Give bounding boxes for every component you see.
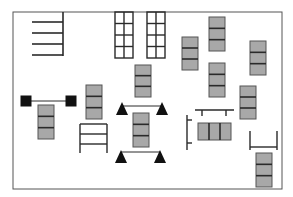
- stack-body: [209, 17, 225, 51]
- stack-body: [38, 105, 54, 139]
- gray-stack: [240, 86, 256, 119]
- stack-body: [86, 85, 102, 119]
- u-frame: [250, 131, 277, 150]
- floor-plan-diagram: [0, 0, 293, 197]
- gray-stack: [135, 65, 151, 97]
- t-bench: [195, 110, 234, 116]
- stack-body: [240, 86, 256, 119]
- gray-stack: [38, 105, 54, 139]
- stack-body: [250, 41, 266, 75]
- black-square-icon: [66, 96, 77, 107]
- shelf-unit: [32, 12, 63, 56]
- grid-rack: [115, 12, 133, 58]
- gray-stack: [182, 37, 198, 70]
- stack-body: [256, 153, 272, 187]
- triangle-icon: [156, 102, 168, 115]
- black-square-icon: [21, 96, 32, 107]
- ladder: [80, 124, 107, 153]
- grid-rack: [147, 12, 165, 58]
- gray-stack: [250, 41, 266, 75]
- stack-body: [198, 123, 231, 140]
- stack-body: [209, 63, 225, 97]
- gray-stack: [133, 113, 149, 147]
- stack-body: [182, 37, 198, 70]
- gray-stack: [209, 63, 225, 97]
- gray-stack: [209, 17, 225, 51]
- stack-body: [135, 65, 151, 97]
- bracket: [187, 115, 192, 150]
- gray-stack: [86, 85, 102, 119]
- triangle-icon: [116, 102, 128, 115]
- stack-body: [133, 113, 149, 147]
- gray-stack: [256, 153, 272, 187]
- gray-stack-horizontal: [198, 123, 231, 140]
